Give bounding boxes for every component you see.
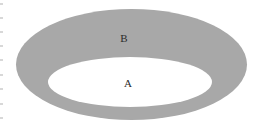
region-label-a: A: [124, 78, 132, 89]
diagram-canvas: B A: [0, 0, 259, 130]
annulus-figure: [0, 0, 259, 130]
region-label-b: B: [120, 33, 127, 44]
